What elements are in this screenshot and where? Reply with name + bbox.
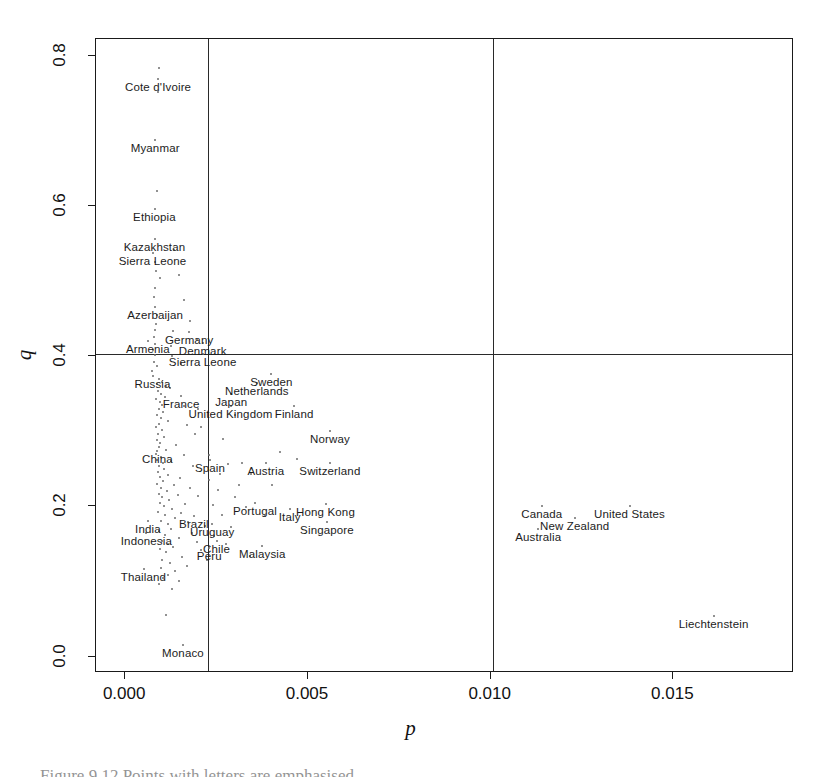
- data-point-labeled: [254, 502, 256, 504]
- data-point: [162, 411, 164, 413]
- data-point-labeled: [157, 78, 159, 80]
- x-tick-mark: [672, 672, 673, 679]
- data-point: [159, 277, 161, 279]
- data-point: [164, 514, 166, 516]
- data-point: [160, 520, 162, 522]
- data-point-labeled: [147, 520, 149, 522]
- plot-area: Cote d'IvoireMyanmarEthiopiaKazakhstanSi…: [95, 38, 793, 672]
- data-point: [165, 614, 167, 616]
- data-point: [156, 365, 158, 367]
- data-point: [234, 496, 236, 498]
- point-label: India: [135, 525, 161, 537]
- point-label: United States: [594, 509, 665, 521]
- data-point-labeled: [156, 450, 158, 452]
- data-point: [180, 512, 182, 514]
- point-label: Portugal: [233, 506, 277, 518]
- data-point: [169, 562, 171, 564]
- data-point: [279, 451, 281, 453]
- data-point: [167, 523, 169, 525]
- x-tick-label: 0.015: [651, 684, 694, 704]
- data-point: [159, 442, 161, 444]
- y-tick-mark: [88, 505, 95, 506]
- x-tick-label: 0.005: [286, 684, 329, 704]
- data-point: [161, 496, 163, 498]
- data-point-labeled: [180, 395, 182, 397]
- data-point: [221, 514, 223, 516]
- data-point: [158, 446, 160, 448]
- data-point: [163, 468, 165, 470]
- data-point-labeled: [143, 568, 145, 570]
- data-point-labeled: [265, 462, 267, 464]
- data-point: [158, 423, 160, 425]
- data-point: [159, 548, 161, 550]
- data-point: [186, 565, 188, 567]
- y-tick-mark: [88, 55, 95, 56]
- point-label: Malaysia: [239, 549, 286, 561]
- point-label: China: [142, 455, 173, 467]
- data-point: [183, 454, 185, 456]
- data-point-labeled: [270, 373, 272, 375]
- data-point-labeled: [293, 405, 295, 407]
- data-point: [160, 567, 162, 569]
- data-point: [158, 493, 160, 495]
- data-point: [178, 537, 180, 539]
- point-label: Azerbaijan: [127, 310, 183, 322]
- data-point: [161, 429, 163, 431]
- point-label: Russia: [135, 379, 171, 391]
- data-point: [189, 487, 191, 489]
- data-point: [157, 433, 159, 435]
- data-point: [178, 580, 180, 582]
- data-point: [296, 458, 298, 460]
- y-tick-mark: [88, 205, 95, 206]
- x-tick-mark: [490, 672, 491, 679]
- data-point-labeled: [326, 521, 328, 523]
- data-point: [222, 438, 224, 440]
- data-point: [160, 417, 162, 419]
- point-label: Kazakhstan: [124, 242, 186, 254]
- data-point: [178, 274, 180, 276]
- data-point: [159, 401, 161, 403]
- point-label: Peru: [197, 552, 222, 564]
- data-point: [200, 426, 202, 428]
- point-label: Switzerland: [299, 467, 360, 479]
- x-tick-label: 0.010: [468, 684, 511, 704]
- x-tick-mark: [124, 672, 125, 679]
- data-point: [192, 465, 194, 467]
- data-point-labeled: [325, 503, 327, 505]
- data-point: [186, 424, 188, 426]
- data-point: [179, 477, 181, 479]
- data-point: [163, 436, 165, 438]
- point-label: Spain: [195, 463, 225, 475]
- data-point: [172, 330, 174, 332]
- data-point-labeled: [329, 462, 331, 464]
- y-tick-mark: [88, 656, 95, 657]
- y-tick-label: 0.4: [50, 343, 70, 367]
- point-label: Sierra Leone: [119, 256, 187, 268]
- data-point: [159, 476, 161, 478]
- data-point: [156, 439, 158, 441]
- data-point-labeled: [154, 238, 156, 240]
- data-point-labeled: [713, 615, 715, 617]
- data-point: [167, 474, 169, 476]
- data-point: [155, 323, 157, 325]
- data-point: [159, 502, 161, 504]
- figure-caption: Figure 9.12 Points with letters are emph…: [40, 766, 780, 777]
- point-label: Liechtenstein: [679, 619, 749, 631]
- data-point: [184, 503, 186, 505]
- data-point-labeled: [154, 306, 156, 308]
- data-point-labeled: [193, 515, 195, 517]
- data-point: [151, 370, 153, 372]
- point-label: Austria: [247, 466, 284, 478]
- y-axis-title: q: [12, 350, 37, 361]
- point-label: Canada: [521, 509, 562, 521]
- data-point-labeled: [574, 517, 576, 519]
- data-point-labeled: [289, 508, 291, 510]
- data-point: [175, 444, 177, 446]
- data-point: [173, 484, 175, 486]
- vertical-reference-line-2: [493, 39, 494, 671]
- data-point: [153, 361, 155, 363]
- data-point: [217, 489, 219, 491]
- data-point: [158, 408, 160, 410]
- data-point: [238, 484, 240, 486]
- data-point-labeled: [147, 340, 149, 342]
